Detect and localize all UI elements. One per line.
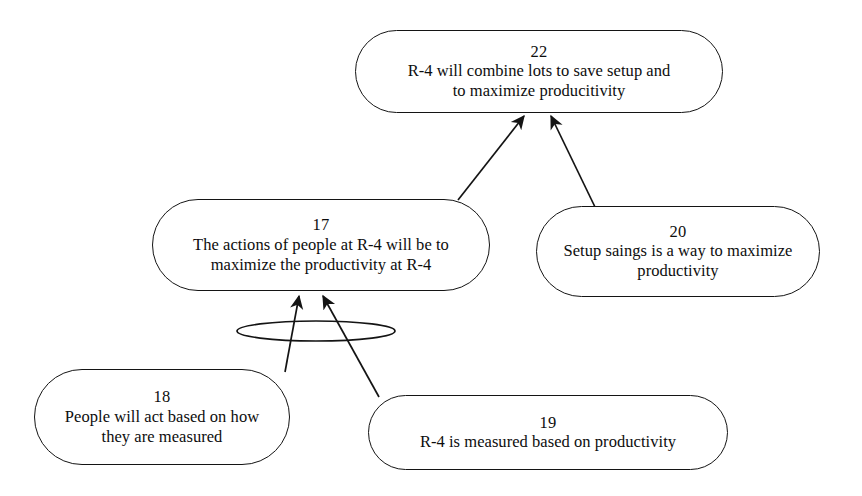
node-18[interactable]: 18 People will act based on how they are…: [34, 369, 290, 465]
node-18-number: 18: [154, 387, 171, 406]
node-22[interactable]: 22 R-4 will combine lots to save setup a…: [355, 30, 723, 113]
edge-18-to-17: [285, 296, 299, 372]
node-19-text: R-4 is measured based on productivity: [420, 432, 676, 452]
node-17[interactable]: 17 The actions of people at R-4 will be …: [152, 199, 490, 291]
node-17-text: The actions of people at R-4 will be to …: [193, 235, 449, 275]
node-22-text: R-4 will combine lots to save setup and …: [408, 61, 671, 101]
diagram-canvas: 22 R-4 will combine lots to save setup a…: [0, 0, 862, 496]
node-19[interactable]: 19 R-4 is measured based on productivity: [368, 395, 728, 470]
node-20-number: 20: [670, 222, 687, 241]
node-17-number: 17: [313, 215, 330, 234]
node-19-number: 19: [540, 413, 557, 432]
edge-20-to-22: [551, 116, 595, 207]
and-connector-ellipse: [237, 321, 395, 341]
edge-19-to-17: [323, 296, 379, 397]
node-20-text: Setup saings is a way to maximize produc…: [564, 241, 793, 281]
node-18-text: People will act based on how they are me…: [65, 407, 259, 447]
node-20[interactable]: 20 Setup saings is a way to maximize pro…: [536, 206, 820, 297]
edge-17-to-22: [458, 116, 524, 200]
node-22-number: 22: [531, 42, 548, 61]
